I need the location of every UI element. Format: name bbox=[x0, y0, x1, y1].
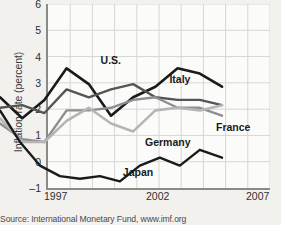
data-lines-layer bbox=[0, 0, 232, 194]
x-tick-label: 2002 bbox=[146, 191, 169, 202]
source-note: Source: International Monetary Fund, www… bbox=[0, 214, 281, 224]
series-label-france: France bbox=[216, 122, 250, 133]
series-label-germany: Germany bbox=[145, 137, 191, 148]
inflation-rate-line-chart: Inflation rate (percent) 6543210–1 19972… bbox=[0, 0, 281, 225]
series-label-japan: Japan bbox=[123, 167, 153, 178]
x-tick-label: 2007 bbox=[246, 191, 269, 202]
series-label-us: U.S. bbox=[101, 55, 121, 66]
series-label-italy: Italy bbox=[169, 74, 190, 85]
x-tick-label: 1997 bbox=[44, 191, 67, 202]
